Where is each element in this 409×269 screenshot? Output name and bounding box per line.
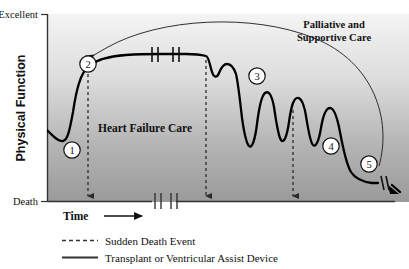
legend: Sudden Death Event Transplant or Ventric…	[62, 235, 278, 264]
marker-3: 3	[249, 68, 265, 84]
marker-5-label: 5	[366, 159, 371, 170]
legend-label-transplant: Transplant or Ventricular Assist Device	[105, 252, 278, 264]
marker-5: 5	[361, 156, 377, 172]
marker-1: 1	[64, 142, 80, 158]
marker-4-label: 4	[328, 141, 334, 152]
annotation-palliative-line2: Supportive Care	[297, 32, 372, 43]
y-axis-top-label: Excellent	[0, 9, 38, 20]
annotation-palliative-line1: Palliative and	[303, 19, 365, 30]
y-axis-bottom-label: Death	[13, 196, 39, 207]
y-axis-title: Physical Function	[14, 55, 28, 162]
figure-container: Excellent Death Physical Function Time	[0, 0, 409, 269]
marker-3-label: 3	[254, 71, 259, 82]
x-axis-title: Time	[63, 210, 88, 222]
annotation-heart-failure-care: Heart Failure Care	[98, 122, 192, 134]
marker-1-label: 1	[69, 145, 74, 156]
marker-2: 2	[80, 56, 96, 72]
marker-4: 4	[323, 138, 339, 154]
marker-2-label: 2	[85, 59, 90, 70]
legend-label-sudden-death: Sudden Death Event	[105, 235, 195, 247]
trajectory-diagram: Excellent Death Physical Function Time	[0, 0, 409, 269]
